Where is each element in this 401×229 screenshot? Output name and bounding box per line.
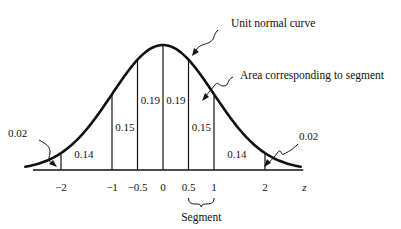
arrowhead-icon: [49, 160, 57, 167]
segment-area-label: 0.15: [192, 121, 212, 133]
segment-area-label: 0.19: [166, 94, 186, 106]
x-tick-labels: −2−1−0.500.512: [55, 181, 268, 193]
x-tick-label: −2: [55, 181, 67, 193]
x-tick-label: 1: [211, 181, 217, 193]
segment-brace: [189, 198, 215, 207]
x-tick-label: 0: [160, 181, 166, 193]
x-tick-label: −0.5: [128, 181, 148, 193]
unit-normal-curve-arrow: [196, 30, 218, 50]
segment-area-label: 0.14: [74, 148, 94, 160]
segment-area-label: 0.15: [115, 121, 135, 133]
x-tick-label: 2: [262, 181, 268, 193]
segment-label: Segment: [181, 211, 222, 224]
left-tail-area-label: 0.02: [8, 127, 27, 139]
x-tick-label: 0.5: [182, 181, 196, 193]
x-axis-label: z: [301, 181, 307, 193]
x-tick-label: −1: [106, 181, 118, 193]
segment-area-label: 0.14: [227, 148, 247, 160]
right-tail-arrow: [268, 144, 298, 163]
right-tail-area-label: 0.02: [299, 130, 318, 142]
annotation-unit-normal-curve: Unit normal curve: [231, 17, 315, 29]
annotation-area-segment: Area corresponding to segment: [240, 69, 385, 82]
arrowhead-icon: [192, 48, 199, 56]
segment-area-label: 0.19: [141, 94, 161, 106]
normal-curve-figure: −2−1−0.500.512 0.140.150.190.190.150.14 …: [0, 0, 401, 229]
